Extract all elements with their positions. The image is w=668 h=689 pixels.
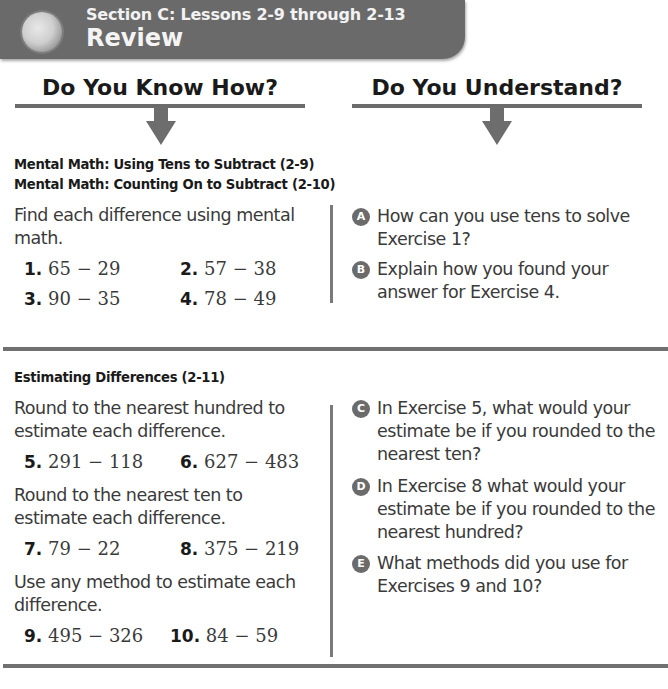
question-text: What methods did you use for Exercises 9… (377, 552, 667, 598)
exercise-expression: 627 − 483 (204, 451, 299, 472)
section-divider (3, 664, 668, 668)
instruction-text: Find each difference using mental math. (14, 204, 314, 250)
exercise-number: 4. (180, 289, 198, 309)
exercise-expression: 78 − 49 (204, 288, 276, 309)
question-text: How can you use tens to solve Exercise 1… (377, 205, 667, 251)
exercise-number: 10. (170, 626, 200, 646)
banner-subtitle: Section C: Lessons 2-9 through 2-13 (86, 5, 405, 24)
exercise-expression: 84 − 59 (206, 625, 278, 646)
exercise-3: 3. 90 − 35 (24, 288, 120, 309)
down-arrow-icon (146, 107, 176, 145)
exercise-expression: 375 − 219 (204, 538, 299, 559)
exercise-1: 1. 65 − 29 (24, 258, 120, 279)
question-text: Explain how you found your answer for Ex… (377, 258, 667, 304)
exercise-expression: 65 − 29 (48, 258, 120, 279)
instruction-text: Round to the nearest hundred to estimate… (14, 397, 314, 443)
heading-do-you-understand: Do You Understand? (352, 75, 642, 100)
review-globe-icon (22, 12, 62, 52)
letter-badge: C (352, 400, 370, 418)
question-text: In Exercise 5, what would your estimate … (377, 397, 667, 466)
exercise-number: 2. (180, 259, 198, 279)
exercise-6: 6. 627 − 483 (180, 451, 299, 472)
instruction-text: Round to the nearest ten to estimate eac… (14, 484, 314, 530)
exercise-expression: 57 − 38 (204, 258, 276, 279)
exercise-5: 5. 291 − 118 (24, 451, 143, 472)
exercise-number: 8. (180, 539, 198, 559)
exercise-number: 3. (24, 289, 42, 309)
question-text: In Exercise 8 what would your estimate b… (377, 475, 667, 544)
column-divider (330, 205, 333, 303)
exercise-4: 4. 78 − 49 (180, 288, 276, 309)
topic-heading: Mental Math: Using Tens to Subtract (2-9… (14, 157, 314, 172)
column-divider (330, 405, 333, 657)
exercise-expression: 291 − 118 (48, 451, 143, 472)
exercise-number: 7. (24, 539, 42, 559)
letter-badge: A (352, 208, 370, 226)
exercise-2: 2. 57 − 38 (180, 258, 276, 279)
exercise-expression: 79 − 22 (48, 538, 120, 559)
exercise-8: 8. 375 − 219 (180, 538, 299, 559)
letter-badge: D (352, 478, 370, 496)
exercise-10: 10. 84 − 59 (170, 625, 278, 646)
letter-badge: B (352, 261, 370, 279)
banner-title: Review (86, 24, 183, 52)
topic-heading: Mental Math: Counting On to Subtract (2-… (14, 177, 335, 192)
exercise-expression: 495 − 326 (48, 625, 143, 646)
letter-badge: E (352, 555, 370, 573)
exercise-number: 9. (24, 626, 42, 646)
down-arrow-icon (482, 107, 512, 145)
exercise-number: 6. (180, 452, 198, 472)
topic-heading: Estimating Differences (2-11) (14, 370, 225, 385)
heading-do-you-know-how: Do You Know How? (15, 75, 305, 100)
exercise-9: 9. 495 − 326 (24, 625, 143, 646)
section-divider (3, 347, 668, 351)
exercise-expression: 90 − 35 (48, 288, 120, 309)
exercise-number: 1. (24, 259, 42, 279)
exercise-number: 5. (24, 452, 42, 472)
exercise-7: 7. 79 − 22 (24, 538, 120, 559)
instruction-text: Use any method to estimate each differen… (14, 571, 314, 617)
section-banner: Section C: Lessons 2-9 through 2-13 Revi… (0, 0, 465, 59)
